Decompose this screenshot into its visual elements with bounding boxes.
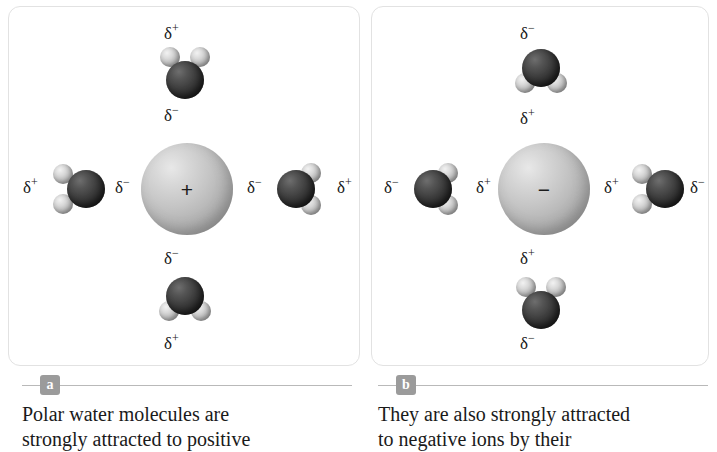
caption-text-a: Polar water molecules are strongly attra… xyxy=(22,402,352,452)
delta-label-b-right-inner: δ+ xyxy=(604,179,619,196)
caption-text-b: They are also strongly attracted to nega… xyxy=(378,402,708,452)
oxygen-atom xyxy=(414,170,452,208)
delta-label-b-top-inner: δ+ xyxy=(520,110,535,127)
delta-label-a-bottom-outer: δ+ xyxy=(164,335,179,352)
negative-ion-sphere: − xyxy=(498,143,590,235)
oxygen-atom xyxy=(522,291,560,329)
water-molecule-b-right xyxy=(630,161,686,217)
panel-a-stage: δ+ δ− δ+ δ− + xyxy=(9,7,359,365)
water-molecule-b-left xyxy=(412,161,468,217)
delta-label-a-right-outer: δ+ xyxy=(337,179,352,196)
horizontal-rule xyxy=(22,385,352,386)
caption-line: strongly attracted to positive xyxy=(22,427,352,452)
delta-label-a-top-outer: δ+ xyxy=(164,25,179,42)
panel-b: δ− δ+ δ− δ+ − xyxy=(371,6,709,366)
water-molecule-a-left xyxy=(51,161,107,217)
caption-block-a: a Polar water molecules are strongly att… xyxy=(22,375,352,452)
caption-block-b: b They are also strongly attracted to ne… xyxy=(378,375,708,452)
oxygen-atom xyxy=(522,49,560,87)
negative-ion-sign: − xyxy=(498,143,590,235)
oxygen-atom xyxy=(277,170,315,208)
delta-label-b-bottom-outer: δ− xyxy=(520,335,535,352)
oxygen-atom xyxy=(166,61,204,99)
panel-badge-b: b xyxy=(396,375,416,395)
caption-rule-row-b: b xyxy=(378,375,708,395)
delta-label-b-left-outer: δ− xyxy=(384,179,399,196)
caption-line: They are also strongly attracted xyxy=(378,402,708,427)
oxygen-atom xyxy=(67,170,105,208)
delta-label-a-left-inner: δ− xyxy=(115,179,130,196)
water-molecule-a-top xyxy=(157,45,213,101)
caption-rule-row-a: a xyxy=(22,375,352,395)
delta-label-b-top-outer: δ− xyxy=(520,25,535,42)
delta-label-a-right-inner: δ− xyxy=(247,179,262,196)
delta-label-a-top-inner: δ− xyxy=(164,107,179,124)
oxygen-atom xyxy=(166,277,204,315)
delta-label-b-right-outer: δ− xyxy=(690,179,705,196)
delta-label-b-left-inner: δ+ xyxy=(476,179,491,196)
delta-label-a-bottom-inner: δ− xyxy=(164,250,179,267)
panel-a: δ+ δ− δ+ δ− + xyxy=(8,6,360,366)
caption-line: to negative ions by their xyxy=(378,427,708,452)
panel-badge-a: a xyxy=(40,375,60,395)
horizontal-rule xyxy=(378,385,708,386)
water-molecule-a-right xyxy=(275,161,331,217)
water-molecule-b-top xyxy=(513,47,569,103)
delta-label-b-bottom-inner: δ+ xyxy=(520,250,535,267)
positive-ion-sign: + xyxy=(141,143,233,235)
caption-line: Polar water molecules are xyxy=(22,402,352,427)
delta-label-a-left-outer: δ+ xyxy=(23,179,38,196)
water-molecule-a-bottom xyxy=(157,275,213,331)
positive-ion-sphere: + xyxy=(141,143,233,235)
oxygen-atom xyxy=(646,170,684,208)
panel-b-stage: δ− δ+ δ− δ+ − xyxy=(372,7,708,365)
water-molecule-b-bottom xyxy=(513,275,569,331)
